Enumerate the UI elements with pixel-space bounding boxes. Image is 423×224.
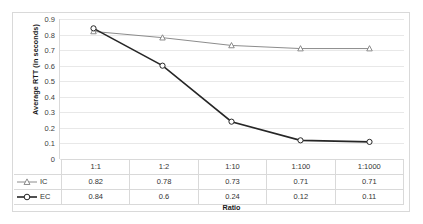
- chart-container: Average RTT (in seconds) 00.10.20.30.40.…: [12, 12, 410, 212]
- value-cell: 0.78: [130, 175, 198, 190]
- value-cell: 0.73: [198, 175, 266, 190]
- value-cell: 0.82: [62, 175, 130, 190]
- y-axis-tick-label: 0.4: [33, 92, 55, 101]
- data-point-ec: [160, 63, 165, 68]
- y-axis-tick-label: 0.2: [33, 123, 55, 132]
- x-axis-title: Ratio: [59, 203, 404, 212]
- circle-marker-icon: [16, 192, 38, 202]
- value-cell: 0.71: [335, 175, 403, 190]
- table-row: IC0.820.780.730.710.71: [14, 175, 404, 190]
- chart-data-table: 1:11:21:101:1001:1000IC0.820.780.730.710…: [14, 159, 404, 205]
- value-cell: 0.71: [267, 175, 335, 190]
- triangle-marker-icon: [16, 177, 38, 187]
- legend-label: IC: [40, 177, 48, 186]
- data-point-ec: [91, 26, 96, 31]
- table-row: 1:11:21:101:1001:1000: [14, 160, 404, 175]
- y-axis-tick-label: 0.1: [33, 139, 55, 148]
- table-corner-cell: [14, 160, 62, 175]
- y-axis-tick-label: 0.7: [33, 46, 55, 55]
- category-header-cell: 1:2: [130, 160, 198, 175]
- legend-entry-ic: IC: [14, 175, 62, 190]
- data-point-ec: [229, 119, 234, 124]
- y-axis-tick-label: 0.9: [33, 15, 55, 24]
- category-header-cell: 1:10: [198, 160, 266, 175]
- y-axis-tick-label: 0.6: [33, 61, 55, 70]
- y-axis-tick-label: 0.8: [33, 30, 55, 39]
- category-header-cell: 1:1000: [335, 160, 403, 175]
- plot-area: 00.10.20.30.40.50.60.70.80.9: [59, 19, 404, 159]
- legend-entry-ec: EC: [14, 190, 62, 205]
- category-header-cell: 1:100: [267, 160, 335, 175]
- data-point-ec: [298, 138, 303, 143]
- chart-series-layer: [59, 19, 404, 159]
- legend-label: EC: [40, 192, 50, 201]
- data-point-ec: [367, 139, 372, 144]
- y-axis-tick-labels: 00.10.20.30.40.50.60.70.80.9: [33, 19, 55, 159]
- category-header-cell: 1:1: [62, 160, 130, 175]
- y-axis-tick-label: 0.3: [33, 108, 55, 117]
- y-axis-tick-label: 0.5: [33, 77, 55, 86]
